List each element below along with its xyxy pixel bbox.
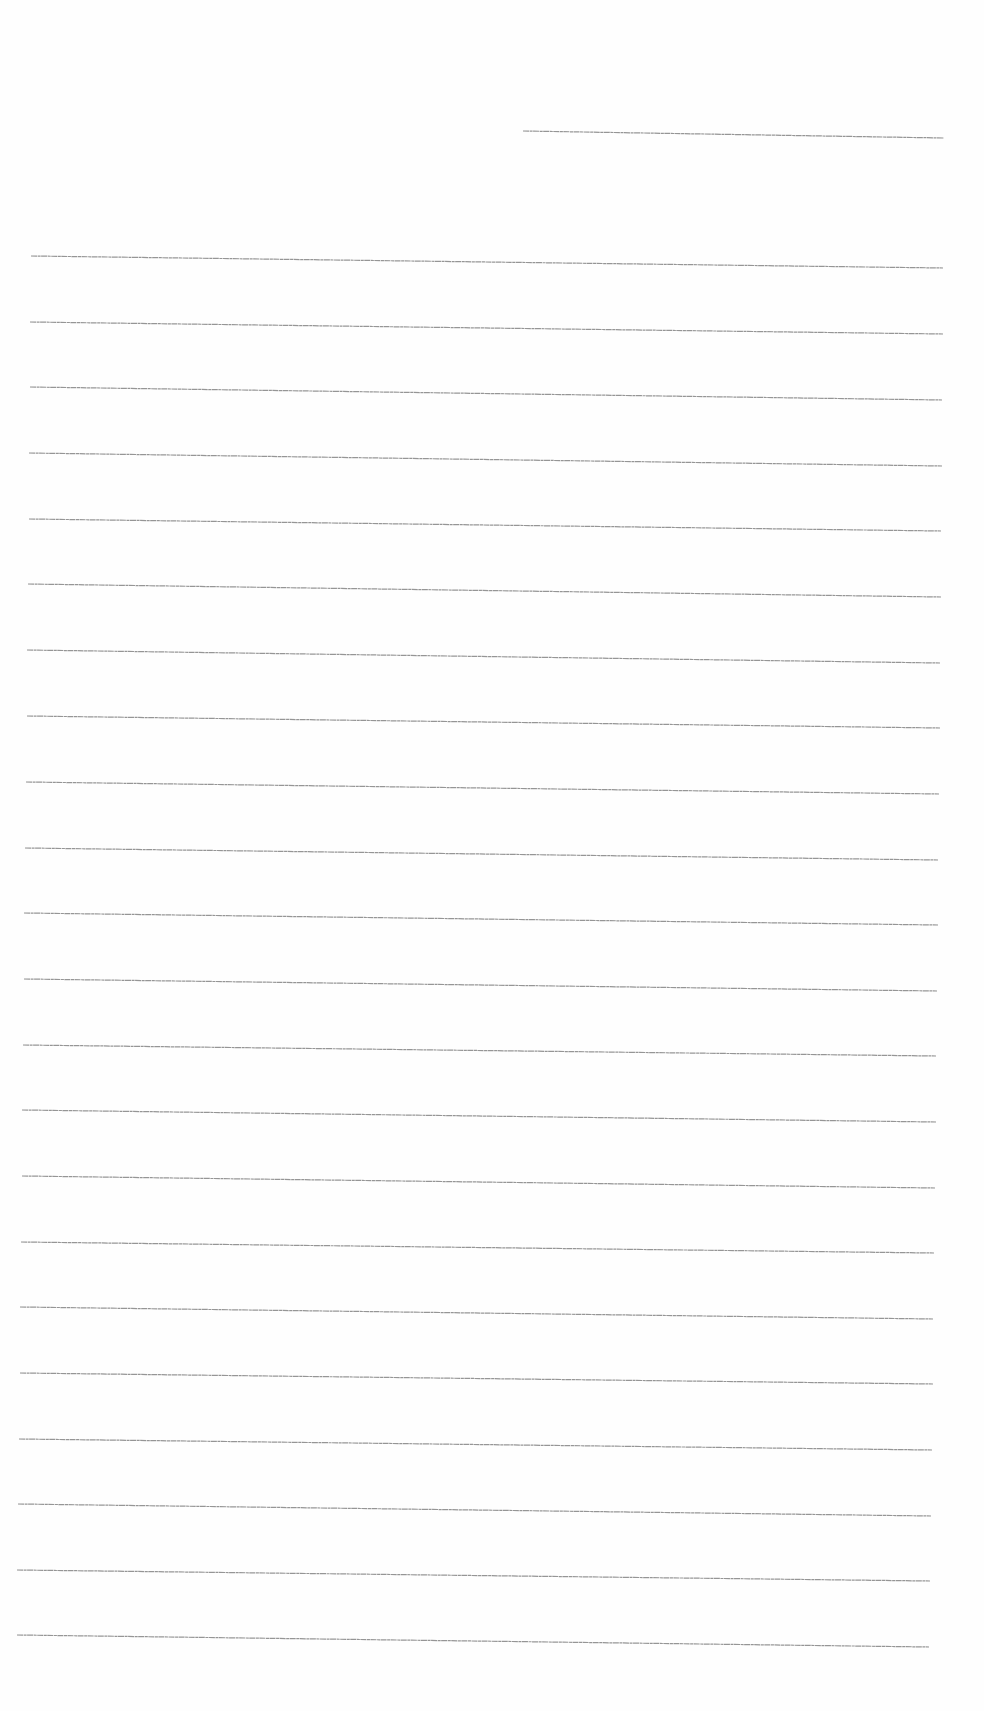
ruled-line-11 [24, 913, 938, 925]
ruled-line-9 [26, 782, 939, 794]
ruled-paper-sheet [0, 0, 984, 1711]
ruled-line-13 [23, 1045, 936, 1056]
ruled-line-14 [22, 1110, 936, 1122]
ruled-line-22 [17, 1635, 929, 1647]
ruled-line-17 [20, 1307, 933, 1319]
ruled-line-19 [19, 1439, 932, 1450]
ruled-line-18 [20, 1373, 933, 1384]
ruled-line-7 [27, 650, 940, 663]
ruled-line-4 [29, 453, 942, 466]
ruled-line-8 [27, 716, 940, 728]
ruled-line-12 [24, 979, 937, 991]
ruled-line-2 [30, 322, 943, 334]
ruled-line-16 [21, 1242, 934, 1253]
ruled-line-21 [17, 1570, 930, 1581]
ruled-line-5 [29, 519, 941, 531]
ruled-line-1 [31, 256, 943, 268]
ruled-line-10 [25, 848, 938, 860]
header-rule-line [523, 131, 944, 138]
ruled-line-3 [30, 387, 942, 400]
ruled-line-20 [18, 1504, 931, 1516]
ruled-lines-layer [0, 0, 984, 1711]
ruled-line-6 [28, 584, 941, 597]
ruled-line-15 [22, 1176, 935, 1188]
